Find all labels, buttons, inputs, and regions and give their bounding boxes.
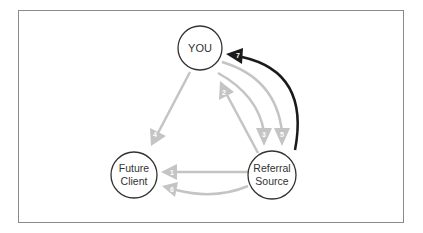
- arrowhead-icon: [226, 48, 243, 64]
- step-number: 1: [170, 169, 174, 176]
- node-referral-source: Referral Source: [248, 151, 296, 199]
- arrow-1: 1: [161, 164, 248, 180]
- arrow-3: 3: [218, 73, 272, 146]
- node-future-client: Future Client: [111, 152, 157, 198]
- step-number: 5: [280, 131, 284, 138]
- step-number: 4: [153, 131, 157, 138]
- arrow-4: 4: [150, 72, 190, 146]
- referral-cycle-diagram: 4 2 3 5 7 1 6 YOU Fut: [0, 0, 423, 233]
- step-number: 7: [236, 52, 240, 59]
- node-label-line-1: Future: [119, 162, 150, 174]
- node-label-line-1: Referral: [253, 162, 290, 174]
- node-label: YOU: [188, 42, 212, 54]
- arrowhead-icon: [161, 164, 177, 180]
- arrow-2: 2: [219, 81, 258, 153]
- arrow-6: 6: [162, 182, 248, 197]
- step-number: 2: [222, 89, 226, 96]
- step-number: 6: [170, 186, 174, 193]
- node-label-line-2: Client: [121, 175, 148, 187]
- step-number: 3: [262, 131, 266, 138]
- node-label-line-2: Source: [255, 175, 288, 187]
- node-you: YOU: [178, 26, 222, 70]
